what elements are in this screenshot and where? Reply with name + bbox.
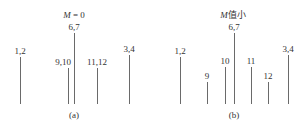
spectral-line [251, 67, 252, 104]
title-condition: 值小 [228, 10, 246, 20]
line-label: 11 [247, 56, 256, 66]
line-label: 12 [264, 71, 273, 81]
line-label: 9 [205, 71, 210, 81]
panel-b: M值小1,29106,711123,4(b) [0, 0, 304, 129]
line-label: 10 [221, 56, 230, 66]
spectral-line [268, 82, 269, 104]
spectral-line [180, 57, 181, 104]
line-label: 1,2 [174, 46, 185, 56]
spectral-line [288, 55, 289, 104]
title-variable: M [220, 10, 228, 20]
line-label: 3,4 [282, 44, 293, 54]
spectral-line [207, 82, 208, 104]
panel-caption: (b) [229, 110, 240, 120]
spectral-line [234, 33, 235, 104]
panel-title: M值小 [220, 10, 246, 20]
spectral-line [225, 67, 226, 104]
line-label: 6,7 [228, 22, 239, 32]
